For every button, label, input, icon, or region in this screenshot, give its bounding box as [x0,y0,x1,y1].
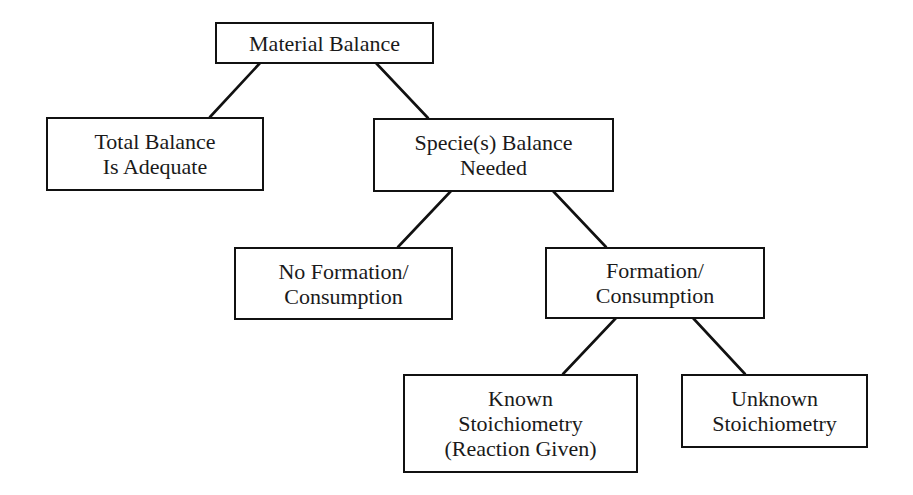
node-no-formation-consumption: No Formation/ Consumption [234,247,453,320]
node-label-line: Stoichiometry [712,411,837,436]
node-label-line: Consumption [596,283,715,308]
material-balance-tree-diagram: Material Balance Total Balance Is Adequa… [0,0,913,495]
node-label-line: Material Balance [249,31,400,56]
edge-species-to-formation [553,191,606,247]
edge-material-to-total [210,63,260,117]
edge-formation-to-unknown [693,318,745,374]
node-label-line: Total Balance [94,129,215,154]
edge-material-to-species [376,63,428,118]
node-label-line: (Reaction Given) [444,436,596,461]
node-label-line: Known [488,386,553,411]
node-label-line: Stoichiometry [458,411,583,436]
node-known-stoichiometry: Known Stoichiometry (Reaction Given) [403,374,638,473]
node-label-line: Consumption [284,284,403,309]
node-label-line: Unknown [731,386,818,411]
node-label-line: Specie(s) Balance [414,130,572,155]
node-material-balance: Material Balance [215,22,434,64]
node-formation-consumption: Formation/ Consumption [545,247,765,319]
node-species-balance: Specie(s) Balance Needed [373,118,614,192]
node-total-balance: Total Balance Is Adequate [46,117,264,191]
edge-formation-to-known [563,318,616,374]
node-label-line: Formation/ [606,258,704,283]
node-label-line: Needed [460,155,527,180]
node-label-line: Is Adequate [103,154,207,179]
edge-species-to-no-formation [398,191,451,247]
node-label-line: No Formation/ [278,259,408,284]
node-unknown-stoichiometry: Unknown Stoichiometry [681,374,868,448]
